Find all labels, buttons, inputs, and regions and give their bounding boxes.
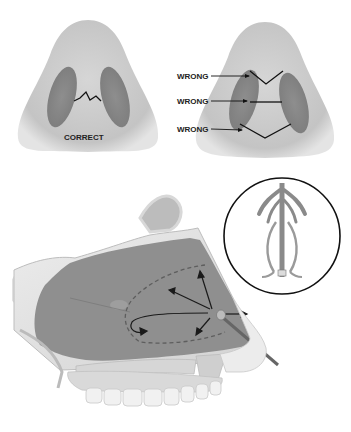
wrong-label-1: WRONG <box>177 72 209 81</box>
wrong-label-3: WRONG <box>177 125 209 134</box>
wrong-label-2: WRONG <box>177 97 209 106</box>
nose-correct-panel: CORRECT <box>18 20 158 152</box>
nose-wrong-panel: WRONG WRONG WRONG <box>177 22 334 158</box>
medical-illustration: CORRECT WRONG WRONG WRONG <box>0 0 351 432</box>
inset-circle-panel <box>224 178 340 294</box>
correct-label: CORRECT <box>64 133 104 142</box>
